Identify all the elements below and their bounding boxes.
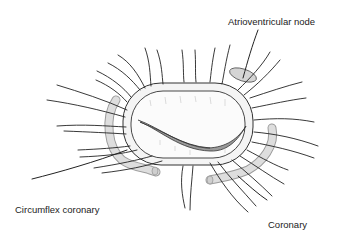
label-circumflex-line1: Circumflex coronary — [15, 204, 99, 215]
label-coronary-sinus: Coronary sinus — [268, 197, 307, 233]
av-node-shape — [228, 65, 258, 85]
diagram-canvas: Atrioventricular node Circumflex coronar… — [0, 0, 358, 233]
label-atrioventricular-node: Atrioventricular node — [228, 16, 315, 27]
label-coronary-sinus-line1: Coronary — [268, 219, 307, 230]
label-circumflex-coronary-artery: Circumflex coronary artery — [15, 182, 99, 233]
